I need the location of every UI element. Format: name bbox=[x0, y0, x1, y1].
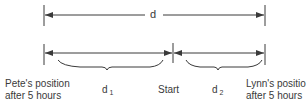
d1-label-base: d bbox=[102, 84, 108, 95]
brace-d2 bbox=[186, 60, 262, 70]
brace-d1 bbox=[58, 60, 163, 70]
pete-position-label: Pete's position after 5 hours bbox=[5, 78, 70, 102]
pete-position-line1: Pete's position bbox=[5, 78, 70, 90]
start-label: Start bbox=[158, 84, 179, 96]
lynn-position-line1: Lynn's position bbox=[246, 78, 306, 90]
segment-arrows bbox=[44, 43, 265, 65]
lynn-position-label: Lynn's position after 5 hours bbox=[246, 78, 306, 102]
d1-label-sub: 1 bbox=[110, 89, 114, 96]
pete-position-line2: after 5 hours bbox=[5, 90, 70, 102]
d2-label-sub: 2 bbox=[220, 89, 224, 96]
lynn-position-line2: after 5 hours bbox=[246, 90, 306, 102]
distance-diagram: d Pete's position after 5 hours d1 Start… bbox=[0, 0, 306, 109]
d2-label: d2 bbox=[212, 84, 223, 99]
d2-label-base: d bbox=[212, 84, 218, 95]
total-distance-label: d bbox=[146, 8, 160, 20]
d1-label: d1 bbox=[102, 84, 113, 99]
